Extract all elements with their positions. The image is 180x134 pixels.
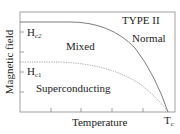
- x-axis-ticks: [51, 108, 143, 112]
- tc-label: Tc: [164, 114, 174, 128]
- hc1-label: Hc1: [27, 65, 42, 79]
- plot-frame: [20, 12, 175, 112]
- region-superconducting-label: Superconducting: [36, 82, 111, 94]
- phase-diagram: TYPE II Normal Mixed Superconducting Hc2…: [0, 0, 180, 134]
- region-mixed-label: Mixed: [66, 40, 95, 52]
- y-axis-label: Magnetic field: [3, 29, 15, 94]
- x-axis-label: Temperature: [72, 116, 128, 128]
- diagram-title: TYPE II: [122, 14, 160, 26]
- hc2-label: Hc2: [27, 26, 42, 40]
- region-normal-label: Normal: [132, 32, 166, 44]
